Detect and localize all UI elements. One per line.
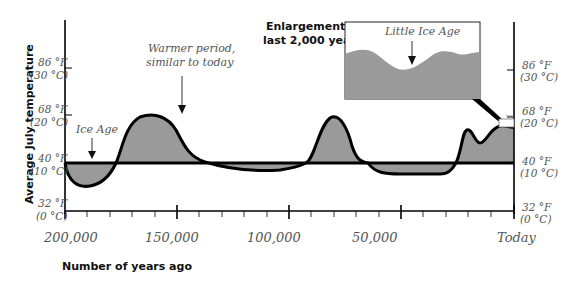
- inset-source-box: [499, 119, 514, 127]
- y-right-32f: 32 °F: [522, 201, 552, 213]
- y-left-32f: 32 °F: [38, 197, 68, 209]
- x-axis-title: Number of years ago: [62, 260, 192, 273]
- x-tick-label-100000: 100,000: [247, 230, 301, 245]
- y-left-0c: (0 °C): [36, 210, 68, 222]
- x-tick-label-200000: 200,000: [43, 230, 98, 245]
- ice-age-label: Ice Age: [75, 123, 118, 136]
- y-right-40f: 40 °F: [521, 155, 552, 167]
- x-tick-label-150000: 150,000: [145, 230, 199, 245]
- ice-age-arrowhead: [88, 151, 96, 159]
- y-right-68f: 68 °F: [522, 105, 552, 117]
- little-ice-age-label: Little Ice Age: [384, 25, 461, 38]
- y-left-86f: 86 °F: [38, 56, 68, 68]
- x-tick-label-today: Today: [497, 230, 537, 245]
- y-right-20c: (20 °C): [520, 117, 558, 129]
- x-tick-label-50000: 50,000: [352, 230, 398, 245]
- y-right-10c: (10 °C): [520, 167, 558, 179]
- y-left-20c: (20 °C): [30, 116, 68, 128]
- warmer-period-label-2: similar to today: [146, 56, 234, 69]
- inset-enlargement: Little Ice Age: [345, 22, 480, 99]
- y-left-40f: 40 °F: [37, 152, 68, 164]
- warmer-period-arrowhead: [178, 105, 186, 114]
- inset-callout-pointer: [472, 99, 502, 121]
- temperature-chart: 200,000 150,000 100,000 50,000 Today Num…: [0, 0, 569, 282]
- y-left-68f: 68 °F: [38, 103, 68, 115]
- y-left-30c: (30 °C): [30, 69, 68, 81]
- y-right-30c: (30 °C): [520, 71, 558, 83]
- y-right-86f: 86 °F: [522, 59, 552, 71]
- right-y-ticks: [507, 70, 514, 117]
- y-left-10c: (10 °C): [30, 165, 68, 177]
- x-ticks: [65, 205, 514, 219]
- warmer-period-label-1: Warmer period,: [148, 42, 235, 55]
- y-right-0c: (0 °C): [520, 213, 552, 225]
